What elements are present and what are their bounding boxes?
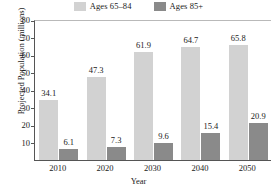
bar: 6.1 bbox=[59, 149, 78, 160]
legend-item-ages-85-plus: Ages 85+ bbox=[154, 2, 204, 11]
bar-value-label: 20.9 bbox=[251, 111, 266, 121]
bar-fill bbox=[229, 45, 248, 160]
y-axis-tick-label: 40 bbox=[13, 85, 30, 96]
x-axis-tick-label: 2040 bbox=[180, 163, 220, 174]
bar-value-label: 34.1 bbox=[41, 88, 56, 98]
bar-group: 61.99.6 bbox=[130, 20, 177, 160]
legend-item-ages-65-84: Ages 65–84 bbox=[74, 2, 132, 11]
bar: 9.6 bbox=[154, 143, 173, 160]
bar-group: 64.715.4 bbox=[177, 20, 224, 160]
x-axis-title: Year bbox=[0, 176, 277, 187]
bar: 61.9 bbox=[134, 52, 153, 160]
bar-value-label: 65.8 bbox=[231, 33, 246, 43]
x-axis-tick-label: 2050 bbox=[227, 163, 267, 174]
x-axis-tick-label: 2030 bbox=[133, 163, 173, 174]
y-axis-tick-label: 60 bbox=[13, 50, 30, 61]
y-axis-tick-label: 70 bbox=[13, 33, 30, 44]
bar-value-label: 9.6 bbox=[158, 131, 169, 141]
bar-fill bbox=[249, 123, 268, 160]
x-axis-tick-label: 2010 bbox=[38, 163, 78, 174]
bar-value-label: 47.3 bbox=[89, 65, 104, 75]
y-axis-tick-label: 50 bbox=[13, 68, 30, 79]
bar-fill bbox=[39, 100, 58, 160]
legend-swatch-ages-65-84 bbox=[74, 2, 86, 11]
bar-fill bbox=[154, 143, 173, 160]
legend-swatch-ages-85-plus bbox=[154, 2, 166, 11]
x-axis-line bbox=[34, 160, 271, 161]
bar-fill bbox=[201, 133, 220, 160]
y-axis-tick-label: 20 bbox=[13, 120, 30, 131]
bar-value-label: 61.9 bbox=[136, 40, 151, 50]
bar-value-label: 6.1 bbox=[63, 137, 74, 147]
legend-label-ages-85-plus: Ages 85+ bbox=[170, 2, 204, 11]
bar-fill bbox=[59, 149, 78, 160]
plot-area: 102030405060708034.16.147.37.361.99.664.… bbox=[34, 20, 271, 160]
y-axis-tick-label: 10 bbox=[13, 138, 30, 149]
bar-value-label: 7.3 bbox=[111, 135, 122, 145]
bar-fill bbox=[134, 52, 153, 160]
bar: 15.4 bbox=[201, 133, 220, 160]
bar-group: 47.37.3 bbox=[82, 20, 129, 160]
bar-fill bbox=[181, 47, 200, 160]
bar-fill bbox=[107, 147, 126, 160]
legend-label-ages-65-84: Ages 65–84 bbox=[90, 2, 132, 11]
chart-legend: Ages 65–84 Ages 85+ bbox=[0, 2, 277, 11]
bar: 7.3 bbox=[107, 147, 126, 160]
bar: 47.3 bbox=[87, 77, 106, 160]
bar-group: 34.16.1 bbox=[35, 20, 82, 160]
bar-value-label: 15.4 bbox=[203, 121, 218, 131]
bar: 20.9 bbox=[249, 123, 268, 160]
bar: 64.7 bbox=[181, 47, 200, 160]
bar: 34.1 bbox=[39, 100, 58, 160]
y-axis-tick-label: 30 bbox=[13, 103, 30, 114]
bar-fill bbox=[87, 77, 106, 160]
y-axis-tick-label: 80 bbox=[13, 15, 30, 26]
bar-value-label: 64.7 bbox=[183, 35, 198, 45]
bar-chart: Ages 65–84 Ages 85+ Projected Population… bbox=[0, 0, 277, 191]
x-axis-tick-label: 2020 bbox=[85, 163, 125, 174]
bar-group: 65.820.9 bbox=[225, 20, 272, 160]
bar: 65.8 bbox=[229, 45, 248, 160]
